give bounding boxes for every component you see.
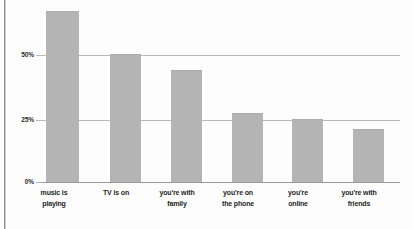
ytick-label-0: 0%: [8, 178, 34, 185]
ytick-dash-25: [36, 120, 41, 121]
bar-tv-is-on[interactable]: [110, 54, 141, 182]
axis-baseline: [40, 182, 400, 183]
bar-music-is-playing[interactable]: [46, 11, 79, 182]
ytick-label-25: 25%: [8, 116, 34, 123]
gridline-50: [40, 55, 400, 56]
chart-canvas: 50% 25% 0% music is playing TV is on you…: [0, 0, 413, 229]
xlabel-youre-on-the-phone: you're on the phone: [207, 188, 269, 209]
ytick-dash-0: [36, 182, 41, 183]
bar-chart-screenshot: 50% 25% 0% music is playing TV is on you…: [0, 0, 413, 229]
bar-youre-on-the-phone[interactable]: [232, 113, 263, 182]
xlabel-tv-is-on: TV is on: [85, 188, 147, 199]
xlabel-youre-with-friends: you're with friends: [328, 188, 390, 209]
xlabel-music-is-playing: music is playing: [23, 188, 85, 209]
ytick-label-50: 50%: [8, 51, 34, 58]
bar-youre-with-friends[interactable]: [353, 129, 384, 182]
xlabel-youre-with-family: you're with family: [146, 188, 208, 209]
xlabel-youre-online: you're online: [267, 188, 329, 209]
bar-youre-with-family[interactable]: [171, 70, 202, 182]
bar-youre-online[interactable]: [292, 119, 323, 182]
ytick-dash-50: [36, 55, 41, 56]
gridline-25: [40, 120, 400, 121]
plot-area: [40, 0, 400, 183]
